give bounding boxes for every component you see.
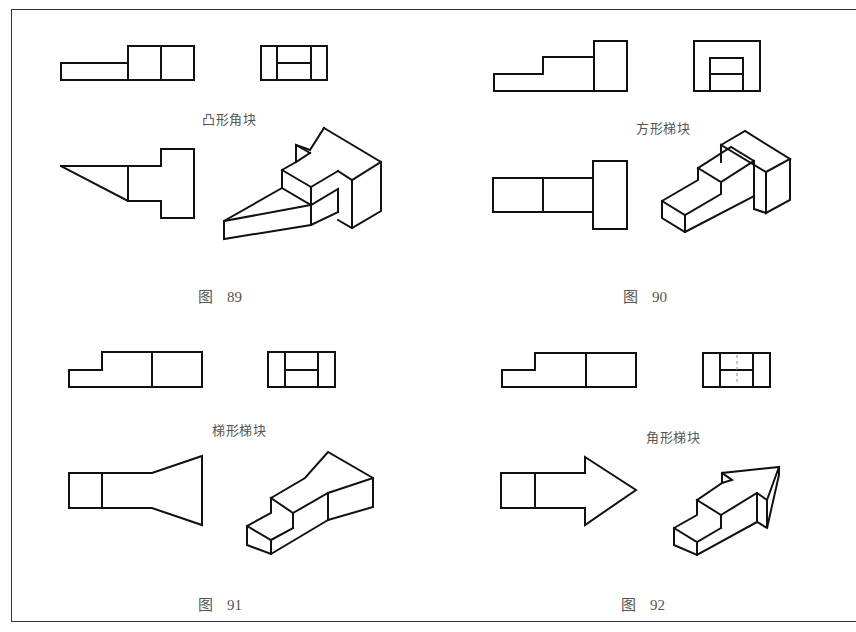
fig92-caption: 图92 (621, 593, 665, 614)
fig90-top-view (493, 161, 627, 229)
fig91-caption: 图91 (198, 593, 242, 614)
fig89-top-view (61, 149, 194, 218)
fig92-top-view (501, 457, 636, 525)
caption-number: 91 (227, 597, 242, 613)
fig91-side-view (268, 352, 335, 387)
caption-prefix: 图 (623, 289, 638, 305)
fig89-title: 凸形角块 (202, 109, 256, 128)
caption-number: 92 (650, 597, 665, 613)
fig90-caption: 图90 (623, 285, 667, 306)
fig90-isometric-view (662, 131, 790, 232)
fig92-title: 角形梯块 (646, 427, 700, 446)
fig89-caption: 图89 (198, 285, 242, 306)
caption-prefix: 图 (621, 597, 636, 613)
fig91-title: 梯形梯块 (212, 420, 266, 439)
fig89-front-view (61, 46, 194, 80)
figure-89 (61, 46, 381, 239)
caption-prefix: 图 (198, 289, 213, 305)
fig91-isometric-view (247, 452, 373, 554)
caption-number: 89 (227, 289, 242, 305)
caption-number: 90 (652, 289, 667, 305)
fig90-title: 方形梯块 (636, 118, 690, 137)
fig92-side-view (703, 353, 770, 387)
fig91-front-view (69, 352, 202, 387)
figure-92 (501, 353, 779, 555)
fig91-top-view (69, 456, 202, 525)
fig90-front-view (494, 41, 627, 91)
fig92-front-view (502, 353, 636, 387)
caption-prefix: 图 (198, 597, 213, 613)
fig92-isometric-view (674, 467, 779, 555)
fig89-side-view (261, 46, 327, 80)
figure-91 (69, 352, 373, 554)
fig89-isometric-view (224, 128, 381, 239)
fig90-side-view (694, 41, 760, 91)
